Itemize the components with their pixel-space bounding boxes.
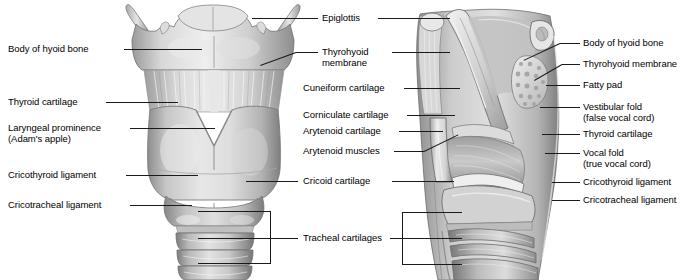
leader-vestibular-fold — [540, 107, 580, 108]
leader-cricothyroid-ligament-right — [552, 182, 580, 183]
leader-cricothyroid-ligament — [126, 175, 198, 176]
bracket-left-stem — [270, 238, 298, 239]
bracket-right-stem — [390, 238, 402, 239]
label-cricoid-cartilage: Cricoid cartilage — [303, 176, 370, 187]
leader-thyroid-cartilage — [106, 102, 178, 103]
label-arytenoid-cartilage: Arytenoid cartilage — [303, 126, 381, 137]
leader-thyroid-cartilage-right — [542, 134, 580, 135]
label-laryngeal-prominence-line2: (Adam's apple) — [8, 134, 71, 145]
leader-vocal-fold — [545, 153, 580, 154]
label-epiglottis: Epiglottis — [322, 13, 360, 24]
leader-body-of-hyoid-bone-right — [560, 43, 580, 44]
bracket-right-arm-top — [402, 212, 462, 213]
label-thyrohyoid-membrane-right: Thyrohyoid membrane — [583, 59, 677, 70]
label-cricotracheal-ligament: Cricotracheal ligament — [8, 200, 101, 211]
label-thyroid-cartilage-right: Thyroid cartilage — [583, 129, 652, 140]
label-vocal-fold: Vocal fold — [583, 148, 624, 159]
leader-thyrohyoid-membrane-right — [392, 52, 450, 53]
leader-cuneiform-cartilage — [404, 88, 460, 89]
leader-laryngeal-prominence — [130, 128, 215, 129]
label-body-of-hyoid-bone: Body of hyoid bone — [8, 44, 88, 55]
label-vestibular-fold-line2: (false vocal cord) — [583, 113, 654, 124]
label-thyrohyoid-membrane: Thyrohyoid — [322, 47, 369, 58]
label-cricothyroid-ligament: Cricothyroid ligament — [8, 170, 96, 181]
bracket-right-arm-mid — [402, 238, 462, 239]
leader-epiglottis-left — [252, 18, 318, 19]
leader-cricoid-cartilage-left — [246, 181, 298, 182]
label-vestibular-fold: Vestibular fold — [583, 102, 642, 113]
label-laryngeal-prominence: Laryngeal prominence — [8, 123, 101, 134]
label-thyroid-cartilage: Thyroid cartilage — [8, 97, 77, 108]
bracket-left-arm-top — [198, 211, 270, 212]
bracket-left-arm-bottom — [198, 263, 270, 264]
leader-thyrohyoid-membrane-right-side — [562, 64, 580, 65]
label-thyrohyoid-membrane-line2: membrane — [322, 58, 367, 69]
label-body-of-hyoid-bone-right: Body of hyoid bone — [583, 38, 663, 49]
leader-epiglottis-right — [378, 18, 450, 19]
leader-arytenoid-muscles — [394, 151, 424, 152]
label-cuneiform-cartilage: Cuneiform cartilage — [303, 83, 384, 94]
label-arytenoid-muscles: Arytenoid muscles — [303, 146, 380, 157]
label-cricotracheal-ligament-right: Cricotracheal ligament — [583, 195, 676, 206]
bracket-left-arm-mid — [198, 238, 270, 239]
larynx-anatomy-figure: Body of hyoid bone Thyroid cartilage Lar… — [0, 0, 689, 280]
leader-cricotracheal-ligament — [130, 205, 192, 206]
leader-body-of-hyoid-bone — [124, 49, 202, 50]
bracket-right-arm-bottom — [402, 264, 462, 265]
leader-cricoid-cartilage-right — [392, 181, 454, 182]
label-fatty-pad: Fatty pad — [583, 80, 622, 91]
label-vocal-fold-line2: (true vocal cord) — [583, 159, 651, 170]
leader-fatty-pad — [546, 85, 580, 86]
label-tracheal-cartilages: Tracheal cartilages — [303, 233, 382, 244]
label-cricothyroid-ligament-right: Cricothyroid ligament — [583, 177, 671, 188]
leader-thyrohyoid-membrane-left — [296, 52, 318, 53]
leader-arytenoid-cartilage — [399, 131, 443, 132]
leader-cricotracheal-ligament-right — [552, 200, 580, 201]
leader-corniculate-cartilage — [407, 115, 455, 116]
label-corniculate-cartilage: Corniculate cartilage — [303, 110, 389, 121]
